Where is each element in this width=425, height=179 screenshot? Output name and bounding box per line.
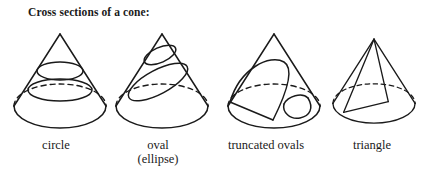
base-back-arc-dashed (14, 84, 106, 106)
caption-triangle: triangle (322, 138, 422, 152)
cross-section-triangle-left-edge (344, 39, 374, 112)
caption-truncated-ovals-line1: truncated ovals (228, 138, 304, 152)
cone-truncated-ovals-drawing (218, 28, 330, 136)
caption-truncated-ovals: truncated ovals (206, 138, 326, 152)
cross-section-circle-lower (28, 79, 92, 101)
cone-oval-drawing (106, 28, 218, 136)
caption-oval-line1: oval (147, 138, 169, 152)
caption-circle: circle (0, 138, 112, 152)
cone-left-side (333, 39, 374, 103)
cone-triangle-drawing (324, 28, 424, 136)
base-front-arc (14, 106, 106, 128)
caption-triangle-line1: triangle (353, 138, 391, 152)
caption-circle-line1: circle (42, 138, 70, 152)
cross-section-truncated-oval-small-chord (284, 95, 308, 104)
cross-section-truncated-oval-small (284, 98, 311, 118)
cone-right-side (374, 39, 415, 103)
base-back-arc-dashed (228, 84, 320, 106)
base-back-arc-dashed (116, 84, 208, 106)
base-front-arc (116, 106, 208, 128)
cross-section-circle-upper (37, 62, 83, 80)
cross-sections-of-a-cone-figure: Cross sections of a cone: circle (0, 0, 425, 179)
cross-section-triangle-right-edge (374, 39, 388, 102)
base-back-arc-dashed (333, 84, 415, 104)
figure-title: Cross sections of a cone: (28, 6, 150, 18)
caption-oval: oval (ellipse) (102, 138, 214, 166)
cross-section-truncated-oval-large-chord (230, 102, 273, 120)
cone-circle-drawing (4, 28, 116, 136)
caption-oval-line2: (ellipse) (102, 152, 214, 166)
base-front-arc (333, 103, 415, 123)
cross-section-oval-upper (141, 41, 178, 69)
cross-section-triangle-base-chord (344, 102, 389, 113)
